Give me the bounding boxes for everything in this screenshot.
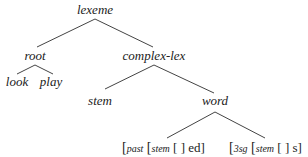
edge-complex-lex-word [154, 65, 214, 93]
node-lexeme: lexeme [77, 2, 113, 18]
node-complex-lex: complex-lex [123, 48, 186, 64]
bracket-open: [ [143, 140, 151, 155]
feature-label-past: past [127, 143, 144, 154]
edge-lexeme-root [37, 19, 95, 47]
leaf-rest: [ ] s] [274, 140, 302, 155]
bracket-open: [ [248, 140, 256, 155]
leaf-3sg: [3sg [stem [ ] s] [229, 140, 302, 157]
edge-word-3sg [215, 112, 265, 138]
leaf-rest: [ ] ed] [170, 140, 205, 155]
edge-root-look [17, 65, 35, 74]
edge-lexeme-complex-lex [95, 19, 153, 47]
node-stem: stem [88, 93, 112, 109]
edge-complex-lex-stem [105, 65, 154, 89]
node-look: look [6, 74, 28, 90]
edge-word-past [167, 112, 215, 138]
node-word: word [202, 93, 228, 109]
node-root: root [24, 48, 45, 64]
feature-label-stem: stem [152, 143, 170, 154]
edge-root-play [35, 65, 53, 74]
node-play: play [40, 74, 62, 90]
feature-label-3sg: 3sg [234, 143, 248, 154]
feature-label-stem: stem [256, 143, 274, 154]
leaf-past: [past [stem [ ] ed] [122, 140, 205, 157]
